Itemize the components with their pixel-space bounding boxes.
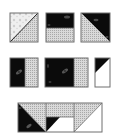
block-hst-light-dotted bbox=[10, 13, 38, 42]
assembled-unit bbox=[18, 103, 102, 132]
print-motif-icon bbox=[94, 19, 99, 22]
block-hst-dark-dotted bbox=[81, 13, 110, 42]
block-wide-dark-dotted-strip bbox=[45, 58, 88, 87]
print-motif-icon bbox=[64, 16, 70, 19]
block-narrow-dark-corner bbox=[95, 58, 110, 87]
block-dark-over-dotted bbox=[46, 13, 74, 42]
quilt-diagram bbox=[0, 0, 117, 139]
block-dark-left-dotted-right bbox=[10, 58, 38, 87]
